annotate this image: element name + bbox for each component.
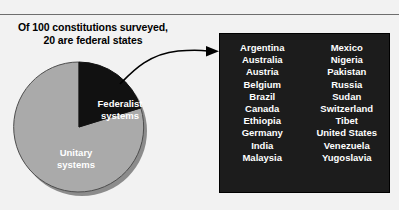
list-item: Belgium — [244, 79, 281, 91]
list-item: Australia — [242, 54, 283, 66]
header-divider — [0, 14, 399, 15]
list-item: Malaysia — [242, 152, 282, 164]
country-column-right: Mexico Nigeria Pakistan Russia Sudan Swi… — [305, 42, 390, 164]
list-item: Sudan — [332, 91, 361, 103]
list-item: Venezuela — [324, 140, 370, 152]
arrow-curve — [120, 50, 208, 84]
figure-canvas: Of 100 constitutions surveyed, 20 are fe… — [0, 0, 399, 210]
list-item: Tibet — [335, 115, 358, 127]
list-item: Mexico — [331, 42, 363, 54]
federal-states-callout-box: Argentina Australia Austria Belgium Braz… — [219, 33, 390, 193]
list-item: Switzerland — [320, 103, 373, 115]
list-item: Brazil — [249, 91, 275, 103]
list-item: Russia — [331, 79, 362, 91]
caption-line-1: Of 100 constitutions surveyed, — [18, 21, 168, 33]
list-item: Austria — [246, 66, 279, 78]
list-item: India — [251, 140, 273, 152]
country-column-left: Argentina Australia Austria Belgium Braz… — [220, 42, 305, 164]
arrow-head — [206, 46, 219, 56]
list-item: Pakistan — [327, 66, 366, 78]
list-item: Argentina — [240, 42, 284, 54]
list-item: Ethiopia — [244, 115, 281, 127]
list-item: Canada — [245, 103, 279, 115]
list-item: Germany — [242, 127, 283, 139]
curved-arrow-icon — [118, 36, 224, 86]
list-item: Yugoslavia — [322, 152, 372, 164]
list-item: Nigeria — [331, 54, 363, 66]
list-item: United States — [316, 127, 377, 139]
